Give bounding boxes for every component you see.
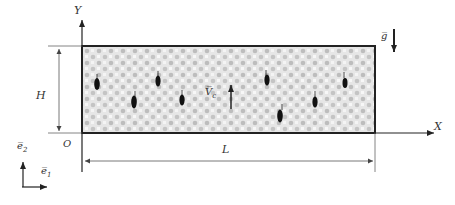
e2-label: e̅2 <box>17 140 28 154</box>
fluid-domain <box>82 46 375 133</box>
origin-label: O <box>63 138 71 149</box>
flow-domain-diagram: Y X O H L g̅ V̅c e̅2 e̅1 <box>0 0 455 205</box>
e1-label: e̅1 <box>41 165 51 179</box>
x-axis-label: X <box>433 120 443 133</box>
length-label: L <box>221 143 229 156</box>
height-label: H <box>35 89 46 102</box>
y-axis-label: Y <box>74 4 83 17</box>
gravity-label: g̅ <box>381 30 387 41</box>
